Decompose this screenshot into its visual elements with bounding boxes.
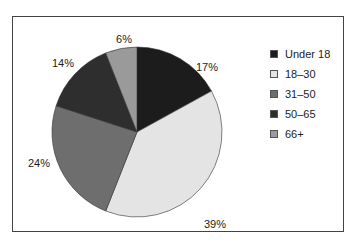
legend-label: 66+ bbox=[285, 128, 304, 140]
legend-item-50-65: 50–65 bbox=[270, 104, 330, 124]
legend-label: 31–50 bbox=[285, 88, 316, 100]
slice-label-18-30: 39% bbox=[204, 218, 226, 230]
legend-label: 18–30 bbox=[285, 68, 316, 80]
legend-swatch bbox=[270, 130, 278, 138]
legend-swatch bbox=[270, 50, 278, 58]
slice-label-50-65: 14% bbox=[52, 57, 74, 69]
slice-label-66-plus: 6% bbox=[116, 33, 132, 45]
legend-item-18-30: 18–30 bbox=[270, 64, 330, 84]
legend-item-66-plus: 66+ bbox=[270, 124, 330, 144]
legend-swatch bbox=[270, 110, 278, 118]
legend-label: Under 18 bbox=[285, 48, 330, 60]
legend-swatch bbox=[270, 90, 278, 98]
legend-swatch bbox=[270, 70, 278, 78]
legend: Under 18 18–30 31–50 50–65 66+ bbox=[270, 44, 330, 144]
slice-label-31-50: 24% bbox=[28, 157, 50, 169]
slice-label-under-18: 17% bbox=[196, 61, 218, 73]
legend-item-under-18: Under 18 bbox=[270, 44, 330, 64]
legend-item-31-50: 31–50 bbox=[270, 84, 330, 104]
legend-label: 50–65 bbox=[285, 108, 316, 120]
